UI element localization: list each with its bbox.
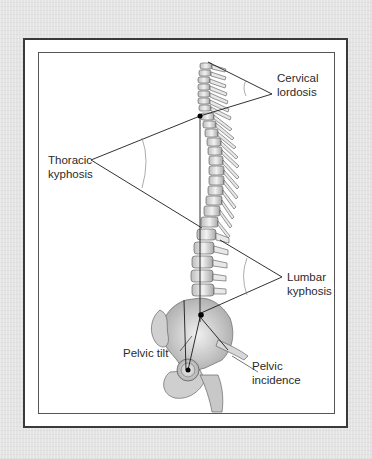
label-line: lordosis <box>277 85 319 99</box>
label-cervical-lordosis: Cervical lordosis <box>277 71 319 99</box>
label-pelvic-incidence: Pelvic incidence <box>252 359 301 387</box>
label-line: Thoracic <box>48 153 93 167</box>
label-line: Pelvic <box>252 359 301 373</box>
label-line: kyphosis <box>48 167 93 181</box>
label-line: Pelvic tilt <box>123 346 168 360</box>
label-thoracic-kyphosis: Thoracic kyphosis <box>48 153 93 181</box>
label-pelvic-tilt: Pelvic tilt <box>123 346 168 360</box>
label-line: kyphosis <box>287 284 332 298</box>
label-line: incidence <box>252 373 301 387</box>
label-line: Cervical <box>277 71 319 85</box>
label-lumbar-kyphosis: Lumbar kyphosis <box>287 270 332 298</box>
spine-diagram <box>0 0 372 459</box>
label-line: Lumbar <box>287 270 332 284</box>
